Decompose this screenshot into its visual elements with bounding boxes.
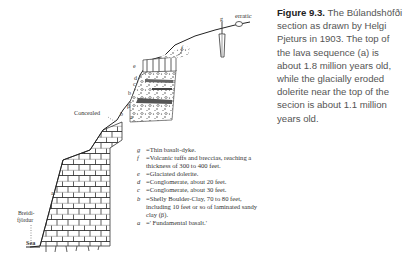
label-a-upper: a [130,114,133,120]
legend-item-d: d=Conglomerate, about 20 feet. [137,178,267,186]
label-b-upper: b [128,90,131,96]
legend-item-a: a=' Fundamental basalt.' [137,219,267,227]
erratic-boulder [236,22,243,27]
label-erratic: erratic [235,12,252,19]
tuff-layer-f [160,46,190,58]
legend-item-c: c=Conglomerate, about 30 feet. [137,186,267,194]
legend-item-b: b=Shelly Boulder-Clay, 70 to 80 feet, in… [137,195,267,219]
label-sea: Sea [26,239,35,246]
legend-item-e: e=Glaciated dolerite. [137,170,267,178]
label-c: c [133,81,136,87]
label-e: e [133,63,136,69]
label-b-lower: b [120,111,123,117]
label-a: a. [51,190,56,196]
figure-caption: Figure 9.3. The Búlandshöfði section as … [277,6,405,125]
legend-item-f: f=Volcanic tuffs and breccias, reaching … [137,154,267,170]
basalt-layer-a [40,122,122,246]
dolerite-layer-e [143,57,176,72]
caption-text: The Búlandshöfði section as drawn by Hel… [277,7,402,124]
label-breidi: Breidi- [18,210,34,216]
label-concealed: Concealed [74,109,101,116]
drawing-legend: g=Thin basalt-dyke. f=Volcanic tuffs and… [137,146,267,227]
label-fjordur: fjördur [17,217,33,223]
legend-item-g: g=Thin basalt-dyke. [137,146,267,154]
label-g: g [220,16,223,22]
figure-number: Figure 9.3. [277,7,325,18]
